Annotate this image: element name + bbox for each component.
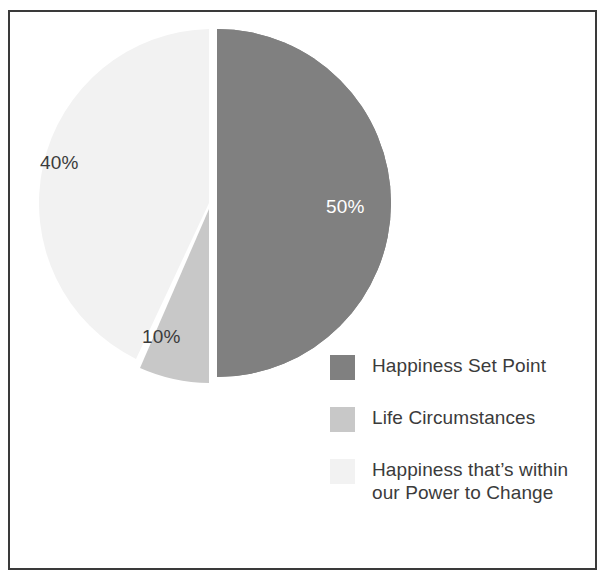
slice-value-label-life-circumstances: 10%: [142, 326, 181, 348]
legend-label-power-to-change: Happiness that’s within our Power to Cha…: [372, 458, 568, 504]
legend-label-line2: our Power to Change: [372, 482, 553, 503]
pie-slice-happiness-set-point-fill: [217, 29, 391, 377]
legend-label-line1: Happiness Set Point: [372, 355, 546, 376]
legend-item-power-to-change[interactable]: Happiness that’s within our Power to Cha…: [330, 458, 592, 504]
legend-label-happiness-set-point: Happiness Set Point: [372, 354, 546, 377]
legend-item-life-circumstances[interactable]: Life Circumstances: [330, 406, 592, 432]
chart-legend: Happiness Set Point Life Circumstances H…: [330, 354, 592, 504]
slice-value-label-happiness-set-point: 50%: [326, 196, 365, 218]
legend-label-line1: Life Circumstances: [372, 407, 535, 428]
legend-label-life-circumstances: Life Circumstances: [372, 406, 535, 429]
legend-item-happiness-set-point[interactable]: Happiness Set Point: [330, 354, 592, 380]
slice-value-label-power-to-change: 40%: [40, 152, 79, 174]
legend-label-line1: Happiness that’s within: [372, 459, 568, 480]
legend-swatch-happiness-set-point: [330, 355, 355, 380]
legend-swatch-life-circumstances: [330, 407, 355, 432]
legend-swatch-power-to-change: [330, 459, 355, 484]
